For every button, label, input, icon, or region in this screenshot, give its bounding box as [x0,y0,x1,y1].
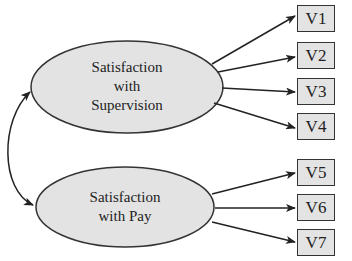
covariance-double-arrow [8,92,33,205]
label-line: Supervision [57,96,197,115]
observed-variable-v5: V5 [297,159,335,186]
path-f1-v1 [212,16,295,64]
path-f1-v4 [214,103,295,128]
path-f2-v5 [212,173,295,194]
label-line: with [57,77,197,96]
observed-variable-v4: V4 [297,113,335,140]
latent-factor-supervision-label: Satisfaction with Supervision [57,58,197,115]
label-line: Satisfaction [55,188,195,207]
observed-variable-v1: V1 [297,5,335,32]
latent-factor-pay-label: Satisfaction with Pay [55,188,195,226]
observed-variable-v2: V2 [297,42,335,69]
path-f1-v2 [218,57,295,72]
observed-variable-v3: V3 [297,78,335,105]
observed-variable-v6: V6 [297,194,335,221]
path-f1-v3 [222,88,295,92]
label-line: Satisfaction [57,58,197,77]
observed-variable-v7: V7 [297,229,335,256]
label-line: with Pay [55,207,195,226]
path-f2-v7 [212,222,295,242]
